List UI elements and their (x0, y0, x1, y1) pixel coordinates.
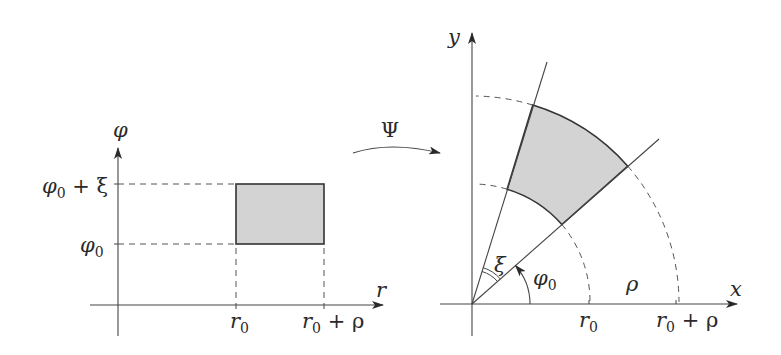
mapping-label-psi: Ψ (381, 118, 399, 142)
left-panel: φ r φ0 + ξ φ0 r0 r0 + ρ (42, 118, 388, 336)
angle-label-phi0: φ0 (533, 266, 557, 293)
annular-sector (507, 105, 628, 224)
mapping-psi: Ψ (353, 118, 440, 153)
y-tick-label-phi0: φ0 (80, 233, 104, 260)
left-vertical-axis-label: φ (113, 118, 128, 142)
right-panel: y x ξ φ0 ρ r0 r0 + ρ (440, 25, 742, 336)
right-x-tick-label-r0-plus-rho: r0 + ρ (656, 308, 718, 335)
y-tick-label-phi0-plus-xi: φ0 + ξ (42, 174, 108, 201)
angle-arc-phi0 (516, 266, 531, 304)
x-axis-label: x (730, 277, 742, 301)
right-x-tick-label-r0: r0 (579, 308, 598, 335)
left-horizontal-axis-label: r (376, 278, 388, 302)
right-ticks (589, 300, 676, 304)
x-tick-label-r0: r0 (230, 309, 249, 336)
y-axis-label: y (447, 25, 461, 49)
mapping-arrow (353, 147, 440, 153)
parameter-rectangle (236, 184, 324, 244)
diagram-canvas: φ r φ0 + ξ φ0 r0 r0 + ρ Ψ (0, 0, 781, 355)
radial-width-label-rho: ρ (625, 272, 639, 296)
angle-label-xi: ξ (494, 253, 507, 277)
x-tick-label-r0-plus-rho: r0 + ρ (302, 309, 364, 336)
